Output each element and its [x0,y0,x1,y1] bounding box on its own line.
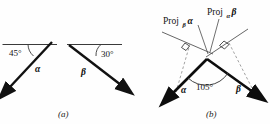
proj-alpha-beta-subscript: α [227,12,231,19]
vector-label-beta: β [80,67,86,77]
proj-alpha-beta-prefix: Proj [207,7,223,17]
proj-beta-alpha-operand: α [188,16,194,26]
vector-projection-figure: 45° α 30° β (a) [0,0,270,124]
panel-b-vector-label-alpha: α [181,85,187,95]
proj-beta-alpha-subscript: β [182,21,187,28]
panel-a-caption: (a) [58,109,69,119]
angle-label-30: 30° [101,49,114,59]
proj-alpha-beta-operand: β [231,7,237,17]
figure-canvas: 45° α 30° β (a) [0,0,270,124]
angle-label-45: 45° [9,48,22,58]
panel-b-vector-label-beta: β [235,84,241,94]
vector-label-alpha: α [35,64,41,74]
angle-label-105: 105° [196,82,214,92]
figure-background [0,0,270,124]
panel-b-caption: (b) [206,109,217,119]
proj-beta-alpha-prefix: Proj [163,16,179,26]
